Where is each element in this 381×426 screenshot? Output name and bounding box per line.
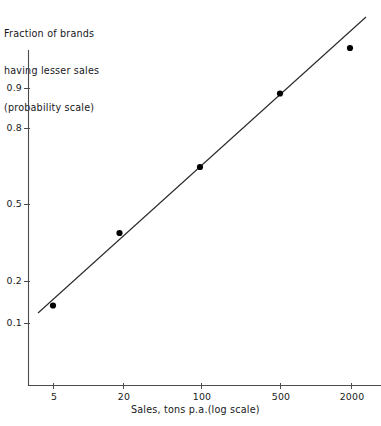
probability-plot-chart: Fraction of brands having lesser sales (…	[0, 0, 381, 426]
y-tick-label-1: 0.8	[0, 122, 22, 133]
y-tick-label-2: 0.5	[0, 198, 22, 209]
y-tick-label-3: 0.2	[0, 275, 22, 286]
x-tick-label-3: 500	[261, 391, 301, 402]
y-tick-label-4: 0.1	[0, 317, 22, 328]
data-point	[197, 164, 203, 170]
data-point	[347, 45, 353, 51]
x-tick-label-2: 100	[182, 391, 222, 402]
plot-area	[0, 0, 381, 426]
x-tick-label-0: 5	[34, 391, 74, 402]
data-point	[277, 90, 283, 96]
y-tick-label-0: 0.9	[0, 82, 22, 93]
data-point	[50, 302, 56, 308]
data-point-series	[50, 45, 353, 309]
data-point	[116, 230, 122, 236]
x-tick-label-1: 20	[104, 391, 144, 402]
x-tick-label-4: 2000	[332, 391, 372, 402]
x-axis-caption: Sales, tons p.a.(log scale)	[131, 404, 260, 415]
y-axis-ticks	[24, 89, 30, 324]
